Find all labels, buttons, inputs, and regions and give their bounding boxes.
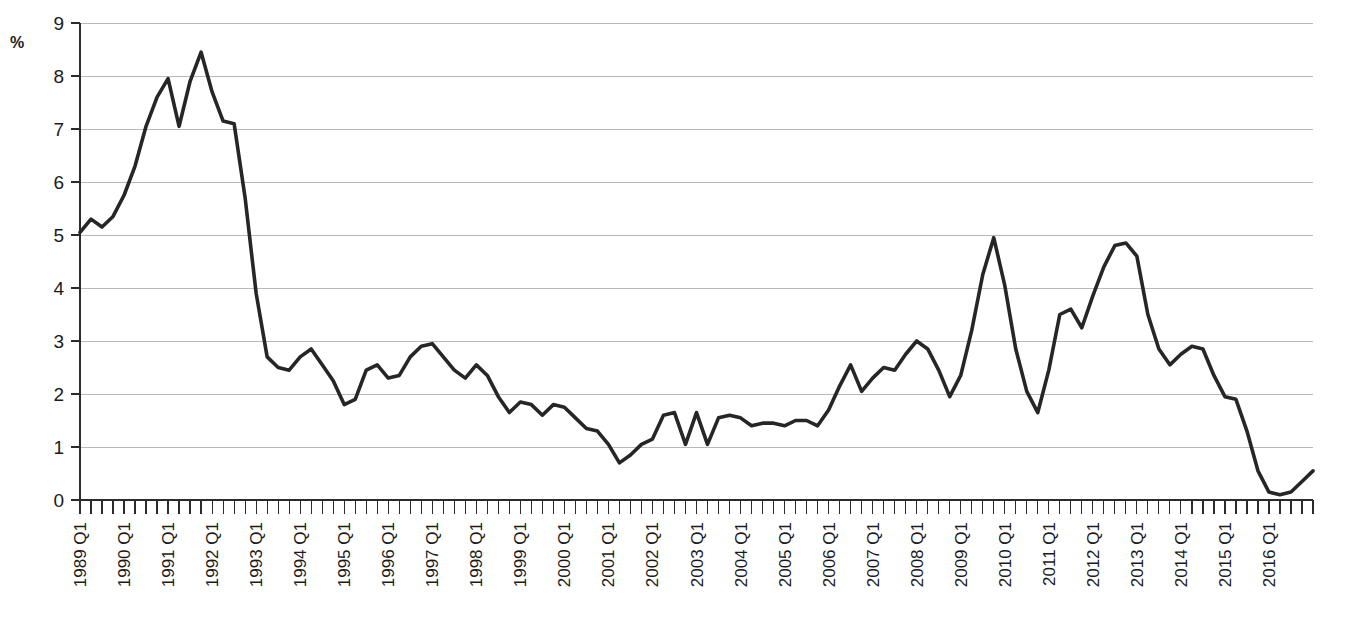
- x-tick-labels-group: 1989 Q11990 Q11991 Q11992 Q11993 Q11994 …: [71, 522, 1279, 587]
- y-axis-group: [71, 23, 80, 500]
- series-group: [80, 52, 1313, 495]
- x-tick-label: 1996 Q1: [379, 522, 398, 587]
- x-tick-label: 1999 Q1: [511, 522, 530, 587]
- x-tick-label: 2004 Q1: [732, 522, 751, 587]
- x-tick-label: 2013 Q1: [1128, 522, 1147, 587]
- x-tick-label: 2007 Q1: [864, 522, 883, 587]
- y-tick-label: 1: [53, 437, 64, 458]
- x-tick-label: 2010 Q1: [996, 522, 1015, 587]
- x-tick-label: 2002 Q1: [643, 522, 662, 587]
- x-tick-label: 1992 Q1: [203, 522, 222, 587]
- x-tick-label: 1989 Q1: [71, 522, 90, 587]
- x-tick-label: 2008 Q1: [908, 522, 927, 587]
- x-tick-label: 1993 Q1: [247, 522, 266, 587]
- x-tick-label: 1994 Q1: [291, 522, 310, 587]
- y-tick-label: 7: [53, 119, 64, 140]
- y-tick-label: 3: [53, 331, 64, 352]
- x-tick-label: 2012 Q1: [1084, 522, 1103, 587]
- y-tick-label: 9: [53, 13, 64, 34]
- y-tick-label: 0: [53, 490, 64, 511]
- x-tick-label: 2001 Q1: [599, 522, 618, 587]
- x-tick-label: 1998 Q1: [467, 522, 486, 587]
- data-series-line: [80, 52, 1313, 495]
- y-tick-label: 8: [53, 66, 64, 87]
- x-tick-label: 2015 Q1: [1216, 522, 1235, 587]
- y-tick-label: 6: [53, 172, 64, 193]
- x-tick-label: 2014 Q1: [1172, 522, 1191, 587]
- y-tick-label: 4: [53, 278, 64, 299]
- y-tick-label: 2: [53, 384, 64, 405]
- x-tick-label: 2000 Q1: [555, 522, 574, 587]
- line-chart: 0123456789 1989 Q11990 Q11991 Q11992 Q11…: [0, 0, 1345, 630]
- y-axis-unit-label: %: [10, 34, 24, 51]
- x-tick-label: 2006 Q1: [820, 522, 839, 587]
- x-tick-label: 2009 Q1: [952, 522, 971, 587]
- x-tick-label: 1991 Q1: [159, 522, 178, 587]
- x-tick-label: 2003 Q1: [688, 522, 707, 587]
- chart-container: 0123456789 1989 Q11990 Q11991 Q11992 Q11…: [0, 0, 1345, 630]
- y-tick-label: 5: [53, 225, 64, 246]
- x-tick-label: 2011 Q1: [1040, 522, 1059, 586]
- gridlines-group: [80, 23, 1313, 447]
- x-tick-label: 1990 Q1: [115, 522, 134, 587]
- x-tick-label: 1997 Q1: [423, 522, 442, 587]
- x-tick-label: 2005 Q1: [776, 522, 795, 587]
- x-tick-label: 1995 Q1: [335, 522, 354, 587]
- x-tick-label: 2016 Q1: [1260, 522, 1279, 587]
- x-axis-group: [80, 500, 1313, 514]
- y-tick-labels-group: 0123456789: [53, 13, 64, 511]
